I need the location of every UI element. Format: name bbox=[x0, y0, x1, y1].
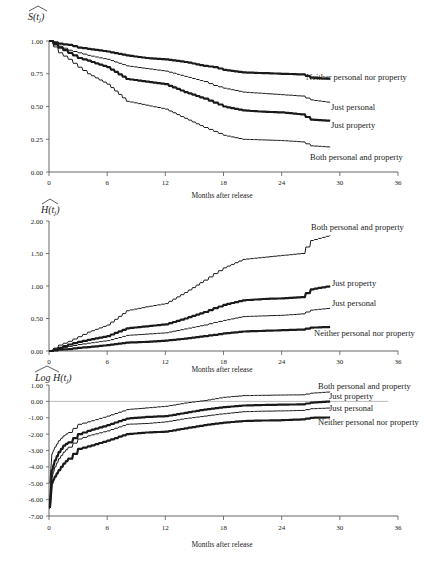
label-neither: Neither personal nor property bbox=[318, 417, 420, 427]
label-just-property: Just property bbox=[329, 391, 374, 401]
y-tick-label: -5.00 bbox=[28, 480, 43, 488]
series-line-just-personal bbox=[50, 408, 330, 503]
label-just-property: Just property bbox=[332, 278, 377, 288]
x-tick-label: 6 bbox=[105, 524, 109, 532]
y-tick-label: 1.50 bbox=[31, 250, 44, 258]
label-neither: Neither personal nor property bbox=[314, 328, 416, 338]
x-tick-label: 0 bbox=[47, 524, 51, 532]
hazard-xlabel: Months after release bbox=[191, 365, 253, 374]
y-tick-label: 0.75 bbox=[31, 70, 44, 78]
log-hazard-lines bbox=[50, 392, 330, 508]
x-tick-label: 6 bbox=[105, 179, 109, 187]
x-tick-label: 36 bbox=[395, 524, 403, 532]
x-tick-label: 6 bbox=[105, 358, 109, 366]
series-line-just-property bbox=[50, 401, 330, 506]
figure: 0.000.250.500.751.00061218243036 S(tj) M… bbox=[0, 0, 431, 563]
y-tick-label: 0.00 bbox=[31, 348, 44, 356]
y-tick-label: -4.00 bbox=[28, 463, 43, 471]
series-line-just-property bbox=[49, 286, 330, 351]
x-tick-label: 0 bbox=[47, 179, 51, 187]
y-tick-label: 0.25 bbox=[31, 136, 44, 144]
label-just-property: Just property bbox=[331, 120, 376, 130]
label-just-personal: Just personal bbox=[331, 102, 376, 112]
x-tick-label: 30 bbox=[336, 524, 344, 532]
label-both: Both personal and property bbox=[311, 222, 405, 232]
x-tick-label: 0 bbox=[47, 358, 51, 366]
label-just-personal: Just personal bbox=[329, 403, 374, 413]
y-tick-label: -7.00 bbox=[28, 513, 43, 521]
y-tick-label: 1.00 bbox=[31, 38, 44, 46]
y-tick-label: 2.00 bbox=[31, 218, 44, 226]
x-tick-label: 36 bbox=[395, 358, 403, 366]
x-tick-label: 18 bbox=[220, 179, 228, 187]
x-tick-label: 12 bbox=[162, 179, 170, 187]
survival-chart: 0.000.250.500.751.00061218243036 S(tj) M… bbox=[28, 6, 408, 200]
label-both: Both personal and property bbox=[318, 381, 412, 391]
x-tick-label: 24 bbox=[278, 179, 286, 187]
y-tick-label: 0.50 bbox=[31, 103, 44, 111]
x-tick-label: 30 bbox=[336, 179, 344, 187]
x-tick-label: 36 bbox=[395, 179, 403, 187]
x-tick-label: 18 bbox=[220, 524, 228, 532]
chart-canvas: 0.000.250.500.751.00061218243036 S(tj) M… bbox=[0, 0, 431, 563]
x-tick-label: 12 bbox=[162, 524, 170, 532]
x-tick-label: 24 bbox=[278, 524, 286, 532]
x-tick-label: 24 bbox=[278, 358, 286, 366]
hazard-lines bbox=[49, 235, 330, 351]
y-tick-label: -3.00 bbox=[28, 447, 43, 455]
label-both: Both personal and property bbox=[310, 152, 404, 162]
survival-lines bbox=[49, 41, 330, 147]
hazard-chart: 0.000.501.001.502.00061218243036 H(tj) M… bbox=[31, 199, 416, 374]
x-tick-label: 30 bbox=[336, 358, 344, 366]
y-tick-label: 0.00 bbox=[31, 398, 44, 406]
label-just-personal: Just personal bbox=[332, 298, 377, 308]
series-line-both-personal-and-property bbox=[49, 235, 330, 351]
survival-xlabel: Months after release bbox=[191, 191, 253, 200]
y-tick-label: -1.00 bbox=[28, 414, 43, 422]
log-hazard-xlabel: Months after release bbox=[191, 540, 253, 549]
survival-ylabel: S(tj) bbox=[28, 11, 45, 24]
x-tick-label: 12 bbox=[162, 358, 170, 366]
y-tick-label: 0.00 bbox=[31, 169, 44, 177]
y-tick-label: 0.50 bbox=[31, 315, 44, 323]
y-tick-label: -2.00 bbox=[28, 431, 43, 439]
hazard-ylabel: H(tj) bbox=[40, 204, 60, 217]
series-line-just-property bbox=[49, 41, 330, 121]
y-tick-label: -6.00 bbox=[28, 496, 43, 504]
log-hazard-chart: -7.00-6.00-5.00-4.00-3.00-2.00-1.000.001… bbox=[28, 366, 419, 549]
label-neither: Neither personal nor property bbox=[306, 72, 408, 82]
y-tick-label: 1.00 bbox=[31, 283, 44, 291]
